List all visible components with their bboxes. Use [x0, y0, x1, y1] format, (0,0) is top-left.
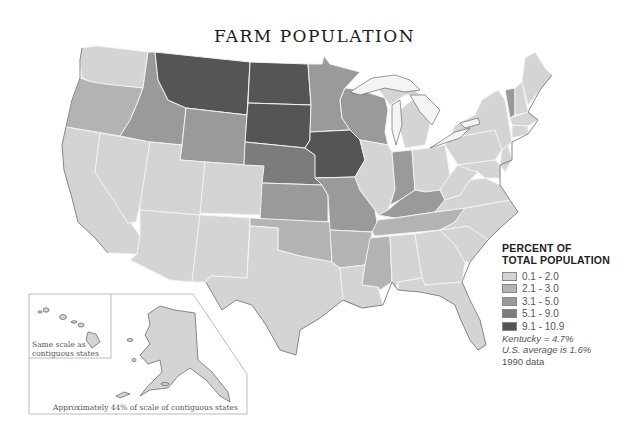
alaska [116, 306, 230, 402]
data-year-note: 1990 data [502, 356, 627, 368]
legend-title-line1: PERCENT OF [502, 242, 627, 254]
kentucky-note: Kentucky = 4.7% [502, 333, 627, 345]
state-colorado [200, 162, 264, 215]
legend-item: 3.1 - 5.0 [502, 295, 627, 308]
hawaii-caption: Same scale as contiguous states [32, 340, 99, 358]
legend-swatch [502, 309, 517, 318]
state-florida [398, 278, 486, 350]
alaska-caption: Approximately 44% of scale of contiguous… [53, 403, 238, 412]
state-south-dakota [245, 103, 311, 148]
legend-swatch [502, 272, 517, 281]
legend-item: 9.1 - 10.9 [502, 320, 627, 333]
state-north-dakota [248, 62, 311, 105]
legend-swatch [502, 284, 517, 293]
state-arizona [130, 210, 200, 282]
state-connecticut [512, 125, 528, 138]
legend-item: 5.1 - 9.0 [502, 308, 627, 321]
legend-item: 0.1 - 2.0 [502, 270, 627, 283]
legend-title-line2: TOTAL POPULATION [502, 254, 627, 266]
state-new-mexico [192, 215, 250, 282]
state-wyoming [180, 108, 247, 165]
state-maine [522, 52, 552, 105]
legend-swatch [502, 322, 517, 331]
state-kansas [260, 183, 328, 222]
lake-michigan [392, 100, 402, 145]
us-average-note: U.S. average is 1.6% [502, 344, 627, 356]
legend-list: 0.1 - 2.0 2.1 - 3.0 3.1 - 5.0 5.1 - 9.0 … [502, 270, 627, 333]
legend: PERCENT OF TOTAL POPULATION 0.1 - 2.0 2.… [502, 242, 627, 367]
us-choropleth-map [0, 0, 629, 433]
legend-swatch [502, 297, 517, 306]
legend-item: 2.1 - 3.0 [502, 283, 627, 296]
